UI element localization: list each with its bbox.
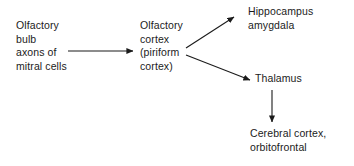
arrow-cortex-to-thalamus	[186, 55, 250, 80]
node-hippocampus-amygdala: Hippocampus amygdala	[248, 5, 313, 32]
node-cerebral-cortex-orbitofrontal: Cerebral cortex, orbitofrontal	[250, 127, 326, 154]
arrow-cortex-to-hippocampus	[186, 17, 234, 48]
diagram-canvas: Olfactory bulb axons of mitral cells Olf…	[0, 0, 354, 166]
node-thalamus: Thalamus	[255, 72, 302, 86]
node-olfactory-cortex: Olfactory cortex (piriform cortex)	[140, 19, 183, 73]
node-olfactory-bulb: Olfactory bulb axons of mitral cells	[16, 19, 67, 73]
